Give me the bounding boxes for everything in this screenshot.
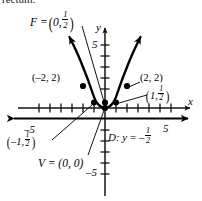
directrix-minus: – xyxy=(139,131,145,143)
vertex-label: V = (0, 0) xyxy=(38,158,83,170)
point-dot-focus xyxy=(102,99,108,105)
point-label-2-2: (2, 2) xyxy=(140,73,163,84)
x-axis-label: x xyxy=(188,96,193,107)
focus-prefix: F = xyxy=(30,16,48,28)
directrix-label: D: y = –12 xyxy=(108,128,152,146)
focus-label: F =(0,12) xyxy=(30,12,74,31)
directrix-fraction: 12 xyxy=(145,127,151,145)
point-label-minus1-half: (–1,12) xyxy=(6,132,36,150)
pm1h-lead: –1, xyxy=(11,136,24,147)
p1h-close-paren: ) xyxy=(165,91,169,103)
focus-close-paren: ) xyxy=(70,17,74,30)
parabola-figure: rectum. xyxy=(0,0,202,201)
y-axis-label: y xyxy=(96,22,101,33)
directrix-prefix: D: xyxy=(108,131,120,143)
point-dot-minus2-2 xyxy=(80,83,86,89)
point-dot-2-2 xyxy=(124,83,130,89)
point-label-minus2-2: (–2, 2) xyxy=(32,73,60,84)
p1h-fraction: 12 xyxy=(158,85,164,103)
x-tick-label-5: 5 xyxy=(163,123,169,134)
point-dot-minus1-half xyxy=(91,100,97,106)
pm1h-fraction: 12 xyxy=(25,131,31,149)
focus-open-paren: ( xyxy=(48,17,52,30)
focus-x-value: 0, xyxy=(53,16,62,28)
y-tick-label-5: 5 xyxy=(92,39,98,50)
p1h-open-paren: ( xyxy=(146,91,150,103)
focus-fraction: 12 xyxy=(62,10,68,29)
p1h-lead: 1, xyxy=(150,90,158,101)
y-axis xyxy=(101,28,110,196)
point-dot-vertex xyxy=(102,105,108,111)
point-dot-1-half xyxy=(113,100,119,106)
pm1h-close-paren: ) xyxy=(32,137,36,149)
pm1h-open-paren: ( xyxy=(7,137,11,149)
point-label-1-half: (1,12) xyxy=(145,86,170,104)
y-tick-label-minus5: –5 xyxy=(86,167,97,178)
